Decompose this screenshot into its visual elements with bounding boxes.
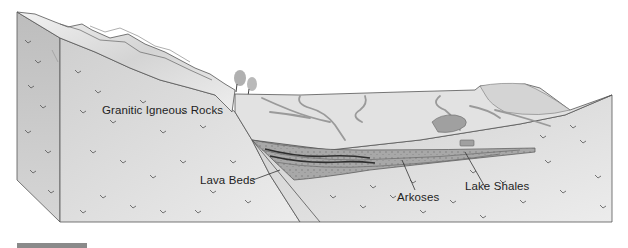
label-lava-beds: Lava Beds <box>200 174 255 186</box>
label-arkoses: Arkoses <box>397 191 439 203</box>
trees <box>234 70 257 96</box>
label-granitic-igneous-rocks: Granitic Igneous Rocks <box>102 104 223 116</box>
bottom-grey-bar <box>17 243 87 248</box>
geological-block-diagram <box>0 0 628 248</box>
label-lake-shales: Lake Shales <box>465 180 529 192</box>
block-left-side <box>17 12 60 222</box>
